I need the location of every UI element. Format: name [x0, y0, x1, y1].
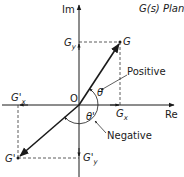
- gx-prime-label: G'x: [11, 92, 27, 106]
- real-axis-label: Re: [165, 109, 178, 120]
- positive-annotation: Positive: [127, 66, 166, 77]
- imag-axis-label: Im: [62, 4, 75, 15]
- gx-label: Gx: [116, 108, 129, 122]
- complex-plane-diagram: G(s) Plane Im Re O G G' Gy Gx G'x G'y θ …: [0, 0, 184, 177]
- negative-annotation: Negative: [107, 130, 152, 141]
- positive-leader: [101, 75, 127, 90]
- theta-prime-label: θ': [86, 111, 95, 122]
- negative-leader: [95, 121, 106, 133]
- plane-title: G(s) Plane: [139, 3, 184, 14]
- theta-label: θ: [97, 87, 103, 98]
- gy-prime-label: G'y: [83, 152, 99, 166]
- vector-g-prime: [17, 105, 80, 160]
- projection-lines: [18, 42, 120, 158]
- origin-label: O: [70, 93, 78, 104]
- point-g-label: G: [123, 36, 131, 47]
- gy-label: Gy: [64, 37, 77, 51]
- point-g-prime-label: G': [5, 153, 16, 164]
